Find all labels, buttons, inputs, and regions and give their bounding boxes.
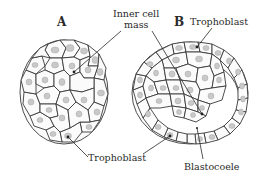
embryo-diagram: A B Inner cell mass Trophoblast Trophobl… <box>0 0 263 177</box>
blastocyst-panel-b <box>132 42 248 144</box>
trophoblast-top-label: Trophoblast <box>190 16 248 27</box>
morula-panel-a <box>20 40 108 144</box>
trophoblast-bottom-label: Trophoblast <box>88 152 146 163</box>
panel-a-label: A <box>56 15 67 29</box>
panel-b-label: B <box>174 15 184 29</box>
inner-cell-mass-label-line2: mass <box>124 19 149 30</box>
inner-cell-mass-label-line1: Inner cell <box>113 8 159 19</box>
blastocoele-label: Blastocoele <box>184 161 240 172</box>
